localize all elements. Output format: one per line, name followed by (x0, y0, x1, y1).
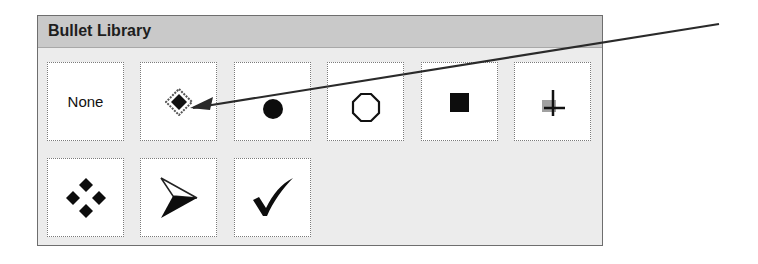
checkmark-bullet-icon (251, 176, 295, 220)
bullet-tile-four-diamond[interactable] (47, 158, 124, 237)
bullet-tile-filled-circle[interactable] (234, 62, 311, 141)
bullet-library-panel: Bullet Library None (37, 15, 603, 246)
arrow-cross-bullet-icon (538, 88, 568, 118)
hollow-circle-bullet-icon (350, 92, 382, 124)
panel-title: Bullet Library (48, 22, 151, 40)
bullet-tile-none[interactable]: None (47, 62, 124, 141)
bullet-tile-arrowhead[interactable] (140, 158, 217, 237)
four-diamond-bullet-icon (64, 176, 108, 220)
bullet-tile-hollow-circle[interactable] (327, 62, 404, 141)
bullet-tile-diamond[interactable] (140, 62, 217, 141)
bullet-tile-arrow-cross[interactable] (514, 62, 591, 141)
panel-header: Bullet Library (38, 16, 602, 48)
bullet-tile-filled-square[interactable] (421, 62, 498, 141)
diamond-bullet-icon (165, 88, 193, 116)
filled-circle-bullet-icon (262, 98, 284, 120)
filled-square-bullet-icon (450, 93, 469, 112)
bullet-tile-checkmark[interactable] (234, 158, 311, 237)
arrowhead-bullet-icon (159, 176, 199, 220)
none-label: None (68, 93, 104, 110)
